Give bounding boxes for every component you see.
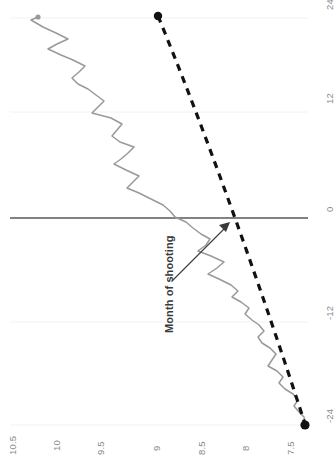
y-tick-label-7-5: 7.5 <box>285 441 296 455</box>
annotation-arrow <box>172 222 230 281</box>
x-tick-label-0: 0 <box>324 207 335 212</box>
observed-series-start-marker <box>35 14 40 19</box>
x-tick-label-24: 24 <box>324 0 335 10</box>
annotation-label-month-of-shooting: Month of shooting <box>163 235 175 333</box>
x-tick-label-neg24: -24 <box>324 409 335 423</box>
trend-series-end-marker <box>300 420 309 429</box>
observed-series-line <box>31 17 305 423</box>
y-tick-label-9: 9 <box>151 446 162 451</box>
y-tick-label-9-5: 9.5 <box>95 441 106 455</box>
trend-series-start-marker <box>154 12 162 20</box>
y-tick-label-8-5: 8.5 <box>196 441 207 455</box>
y-tick-label-10: 10 <box>51 440 62 451</box>
y-tick-label-10-5: 10.5 <box>7 436 18 455</box>
gridlines <box>10 18 308 425</box>
x-tick-label-12: 12 <box>324 93 335 104</box>
x-tick-label-neg12: -12 <box>324 306 335 320</box>
y-tick-label-8: 8 <box>240 446 251 451</box>
